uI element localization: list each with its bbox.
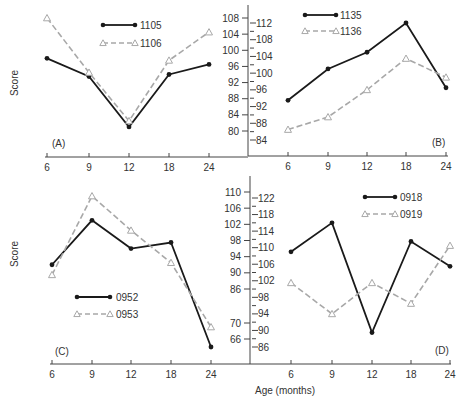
panel-label: (D) [435, 345, 449, 356]
legend-dot [133, 23, 138, 28]
dot-marker [365, 50, 370, 55]
dot-marker [45, 56, 50, 61]
y-tick-label: 118 [258, 209, 274, 220]
x-tick-label: 18 [405, 369, 417, 380]
panel-label: (B) [432, 137, 445, 148]
y-tick-label: 104 [222, 29, 239, 40]
legend-label: 1136 [340, 26, 362, 37]
x-tick-label: 24 [440, 161, 452, 172]
legend-label: 1105 [140, 20, 162, 31]
legend-dot [393, 195, 398, 200]
x-tick-label: 12 [125, 369, 137, 380]
triangle-marker [206, 29, 213, 35]
series-line-solid [52, 220, 211, 347]
y-tick-label: 110 [225, 187, 241, 198]
y-tick-label: 100 [256, 68, 273, 79]
x-tick-label: 12 [366, 369, 378, 380]
y-tick-label: 88 [228, 93, 240, 104]
x-tick-label: 12 [123, 162, 135, 173]
legend-dot [334, 13, 339, 18]
dot-marker [326, 67, 331, 72]
y-axis-title-bottom: Score [9, 241, 20, 268]
y-tick-label: 108 [222, 13, 239, 24]
y-axis-title-top: Score [9, 70, 20, 97]
y-tick-label: 98 [230, 235, 242, 246]
legend-dot [75, 295, 80, 300]
dot-marker [169, 240, 174, 245]
y-tick-label: 94 [258, 308, 270, 319]
y-tick-label: 88 [256, 118, 268, 129]
dot-marker [448, 264, 453, 269]
labels-layer: 691218241081041009692888480(A)1105110669… [9, 10, 456, 397]
x-axis-title: Age (months) [255, 385, 315, 396]
y-tick-label: 90 [258, 325, 270, 336]
y-tick-label: 122 [258, 193, 275, 204]
dot-marker [444, 85, 449, 90]
y-tick-label: 96 [228, 61, 240, 72]
series-line-dashed [291, 246, 450, 314]
x-tick-label: 6 [49, 369, 55, 380]
dot-marker [209, 345, 214, 350]
legend-label: 1106 [140, 38, 162, 49]
dot-marker [50, 262, 55, 267]
y-tick-label: 94 [230, 251, 242, 262]
panel-label: (A) [52, 138, 65, 149]
y-tick-label: 66 [230, 334, 242, 345]
y-tick-label: 102 [224, 219, 241, 230]
y-tick-label: 98 [258, 292, 270, 303]
x-tick-label: 24 [203, 162, 215, 173]
triangle-marker [89, 193, 96, 199]
y-tick-label: 110 [258, 242, 274, 253]
legend-label: 0953 [116, 309, 139, 320]
x-tick-label: 9 [86, 162, 92, 173]
legend-dot [363, 195, 368, 200]
dot-marker [330, 220, 335, 225]
legend-dot [108, 295, 113, 300]
dot-marker [404, 21, 409, 26]
y-tick-label: 80 [228, 126, 240, 137]
x-tick-label: 18 [165, 369, 177, 380]
dot-marker [409, 239, 414, 244]
triangle-marker [44, 15, 51, 21]
y-tick-label: 112 [256, 18, 272, 29]
axes-layer [45, 5, 451, 364]
y-tick-label: 106 [224, 203, 241, 214]
y-tick-label: 92 [228, 77, 240, 88]
y-tick-label: 86 [258, 342, 270, 353]
y-tick-label: 102 [258, 275, 275, 286]
series-line-solid [291, 223, 450, 333]
chart-figure: 691218241081041009692888480(A)1105110669… [0, 0, 464, 406]
x-tick-label: 18 [400, 161, 412, 172]
dot-marker [129, 246, 134, 251]
x-tick-label: 18 [163, 162, 175, 173]
x-tick-label: 6 [44, 162, 50, 173]
triangle-marker [369, 279, 376, 285]
series-line-dashed [288, 59, 446, 130]
dot-marker [90, 218, 95, 223]
y-tick-label: 84 [256, 135, 268, 146]
y-tick-label: 106 [258, 259, 275, 270]
dot-marker [289, 249, 294, 254]
dot-marker [207, 62, 212, 67]
dot-marker [370, 330, 375, 335]
y-tick-label: 108 [256, 34, 273, 45]
legend-triangle [132, 40, 138, 46]
y-tick-label: 86 [230, 284, 242, 295]
triangle-marker [403, 55, 410, 61]
legend-label: 0919 [400, 209, 423, 220]
x-tick-label: 24 [444, 369, 456, 380]
y-tick-label: 96 [256, 84, 268, 95]
triangle-marker [168, 259, 175, 265]
y-tick-label: 92 [256, 101, 268, 112]
y-tick-label: 104 [256, 51, 273, 62]
legend-label: 0952 [116, 292, 139, 303]
panel-a [44, 15, 213, 130]
legend-triangle [107, 311, 113, 317]
y-tick-label: 90 [230, 267, 242, 278]
x-tick-label: 9 [89, 369, 95, 380]
x-tick-label: 6 [288, 369, 294, 380]
triangle-marker [49, 271, 56, 277]
panel-b [285, 21, 450, 133]
x-tick-label: 12 [361, 161, 373, 172]
triangle-marker [288, 279, 295, 285]
